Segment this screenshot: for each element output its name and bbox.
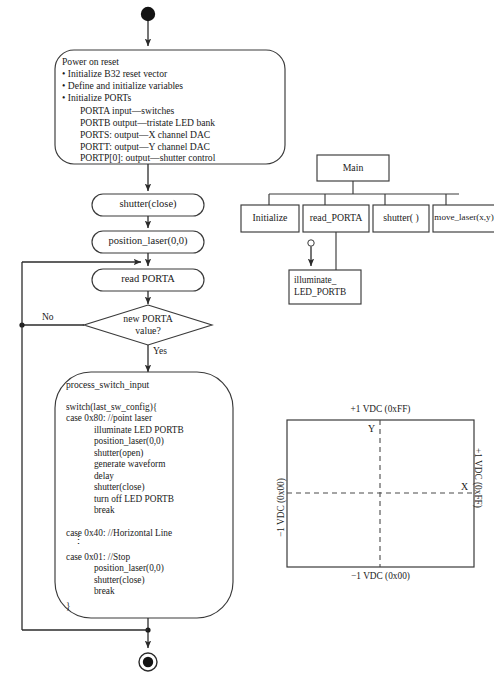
stmt-illuminate-led: illuminate LED PORTB [66, 425, 184, 437]
power-on-reset-bullet-1: • Initialize B32 reset vector [62, 68, 167, 80]
stop-position-laser: position_laser(0,0) [66, 563, 164, 575]
scan-field-left-label: −1 VDC (0x00) [277, 478, 286, 537]
port-config-ports: PORTS: output—X channel DAC [80, 129, 210, 141]
power-on-reset-bullet-3: • Initialize PORTs [62, 92, 131, 104]
scan-field-x-axis-label: X [461, 482, 468, 492]
stop-shutter-close: shutter(close) [66, 575, 145, 587]
stmt-shutter-open: shutter(open) [66, 448, 143, 460]
port-config-portb: PORTB output—tristate LED bank [80, 117, 215, 129]
case-0x80: case 0x80: //point laser [66, 413, 152, 425]
end-node-inner [143, 657, 153, 667]
hier-illuminate-label-line1: illuminate_ [294, 276, 336, 285]
case-0x01: case 0x01: //Stop [66, 552, 130, 564]
scan-field-bottom-label: −1 VDC (0x00) [287, 572, 474, 581]
scan-field-top-label: +1 VDC (0xFF) [287, 405, 474, 414]
switch-closing-brace: } [66, 601, 70, 613]
stmt-break-1: break [66, 505, 115, 517]
shutter-close-label: shutter(close) [92, 199, 204, 210]
port-config-porta: PORTA input—switches [80, 105, 174, 117]
hier-illuminate-label-line2: LED_PORTB [294, 288, 346, 297]
decision-yes-label: Yes [153, 347, 167, 357]
power-on-reset-bullet-2: • Define and initialize variables [62, 80, 183, 92]
decision-label-line2: value? [104, 326, 192, 336]
hier-shutter-label: shutter( ) [373, 213, 429, 223]
port-config-portp: PORTP[0]: output—shutter control [80, 152, 215, 164]
stmt-delay: delay [66, 471, 114, 483]
stmt-position-laser: position_laser(0,0) [66, 436, 164, 448]
stmt-turn-off-led: turn off LED PORTB [66, 494, 174, 506]
case-ellipsis: ⋮ [73, 538, 84, 542]
read-porta-label: read PORTA [92, 274, 204, 285]
decision-no-label: No [42, 313, 54, 323]
scan-field-right-label: +1 VDC (0xFF) [473, 448, 482, 508]
stmt-generate-waveform: generate waveform [66, 459, 165, 471]
start-node [141, 7, 155, 21]
process-switch-input-heading: process_switch_input [66, 379, 149, 391]
hier-movelaser-label: move_laser(x,y) [433, 213, 494, 222]
position-laser-label: position_laser(0,0) [92, 236, 204, 247]
stmt-shutter-close: shutter(close) [66, 482, 145, 494]
decision-label-line1: new PORTA [104, 314, 192, 324]
hier-readporta-label: read_PORTA [303, 213, 369, 223]
flowchart-page: Power on reset • Initialize B32 reset ve… [0, 0, 494, 678]
power-on-reset-heading: Power on reset [62, 56, 119, 68]
scan-field-y-axis-label: Y [368, 424, 375, 434]
stmt-break-2: break [66, 586, 115, 598]
hier-main-label: Main [317, 163, 389, 173]
hier-initialize-label: Initialize [241, 213, 299, 223]
switch-statement: switch(last_sw_config){ [66, 402, 157, 414]
hier-sub-connector-circle [308, 240, 314, 246]
